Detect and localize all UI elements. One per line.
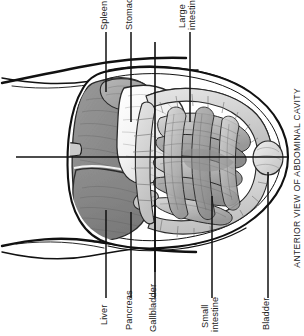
label-large-intestine: Large intestine	[177, 2, 197, 30]
label-small-intestine: Small intestine	[200, 300, 220, 332]
label-liver: Liver	[99, 300, 110, 330]
figure-caption: ANTERIOR VIEW OF ABDOMINAL CAVITY	[292, 88, 302, 268]
label-bladder: Bladder	[261, 300, 272, 330]
label-gallbladder: Gallbladder	[148, 300, 159, 332]
pancreas-organ	[11, 142, 82, 157]
label-stomach: Stomach	[124, 4, 135, 30]
label-spleen: Spleen	[99, 4, 110, 30]
label-pancreas: Pancreas	[124, 300, 135, 330]
bladder-organ	[253, 141, 283, 175]
small-intestine-organ	[153, 107, 250, 225]
